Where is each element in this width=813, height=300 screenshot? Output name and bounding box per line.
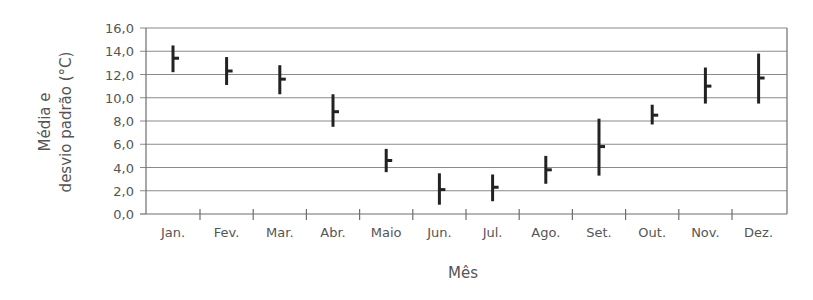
x-tick-label: Abr. bbox=[320, 225, 345, 240]
error-bars bbox=[173, 45, 765, 204]
y-tick-label: 0,0 bbox=[113, 207, 134, 222]
y-axis-tick-labels: 0,02,04,06,08,010,012,014,016,0 bbox=[105, 21, 134, 222]
x-tick-label: Out. bbox=[638, 225, 666, 240]
error-bar-mar bbox=[280, 65, 286, 94]
x-tick-label: Jul. bbox=[482, 225, 503, 240]
y-tick-label: 14,0 bbox=[105, 44, 134, 59]
x-tick-label: Jan. bbox=[160, 225, 185, 240]
x-tick-label: Ago. bbox=[531, 225, 560, 240]
error-bar-ago bbox=[546, 156, 552, 184]
y-tick-label: 8,0 bbox=[113, 114, 134, 129]
error-bar-fev bbox=[227, 57, 233, 85]
y-tick-label: 4,0 bbox=[113, 161, 134, 176]
error-bar-chart: 0,02,04,06,08,010,012,014,016,0 Jan.Fev.… bbox=[0, 0, 813, 300]
x-axis-title: Mês bbox=[448, 264, 478, 282]
error-bar-dez bbox=[759, 54, 765, 104]
y-tick-label: 12,0 bbox=[105, 68, 134, 83]
y-tick-label: 2,0 bbox=[113, 184, 134, 199]
y-tick-label: 10,0 bbox=[105, 91, 134, 106]
x-tick-label: Fev. bbox=[214, 225, 240, 240]
error-bar-jun bbox=[439, 173, 445, 204]
error-bar-jan bbox=[173, 45, 179, 72]
error-bar-jul bbox=[493, 174, 499, 201]
y-axis-title: Média e desvio padrão (°C) bbox=[36, 52, 75, 193]
x-axis-tick-labels: Jan.Fev.Mar.Abr.MaioJun.Jul.Ago.Set.Out.… bbox=[160, 225, 773, 240]
error-bar-abr bbox=[333, 94, 339, 127]
y-axis-title-line-2: desvio padrão (°C) bbox=[57, 52, 75, 193]
x-tick-label: Nov. bbox=[691, 225, 720, 240]
x-tick-label: Dez. bbox=[744, 225, 773, 240]
x-tick-label: Set. bbox=[586, 225, 611, 240]
y-tick-label: 16,0 bbox=[105, 21, 134, 36]
y-tick-label: 6,0 bbox=[113, 137, 134, 152]
y-axis-title-line-1: Média e bbox=[36, 92, 54, 151]
x-tick-label: Jun. bbox=[426, 225, 451, 240]
gridlines bbox=[140, 28, 787, 214]
error-bar-maio bbox=[386, 149, 392, 172]
x-tick-label: Mar. bbox=[266, 225, 293, 240]
x-tick-label: Maio bbox=[371, 225, 402, 240]
